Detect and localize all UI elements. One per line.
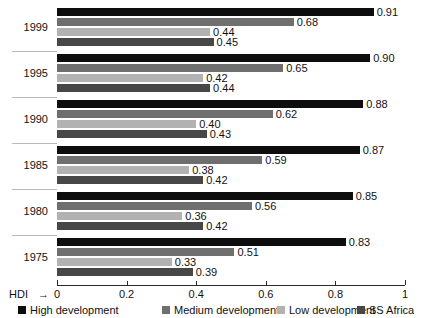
legend-label: High development — [30, 304, 119, 316]
bar-value-label: 0.44 — [213, 82, 234, 94]
bar[interactable] — [57, 130, 207, 138]
bar-row[interactable]: 0.88 — [57, 100, 422, 108]
bar-value-label: 0.56 — [255, 200, 276, 212]
bar-value-label: 0.62 — [276, 108, 297, 120]
bar[interactable] — [57, 156, 262, 164]
year-label: 1999 — [0, 22, 48, 33]
year-label: 1995 — [0, 68, 48, 79]
bar-value-label: 0.39 — [196, 266, 217, 278]
bar[interactable] — [57, 258, 172, 266]
legend-item[interactable]: High development — [18, 304, 119, 316]
bar-value-label: 0.68 — [297, 16, 318, 28]
legend-swatch-icon — [18, 306, 26, 314]
bar[interactable] — [57, 202, 252, 210]
bar-row[interactable]: 0.62 — [57, 110, 422, 118]
chart-legend: High developmentMedium developmentLow de… — [0, 304, 422, 318]
bar-row[interactable]: 0.65 — [57, 64, 422, 72]
bar[interactable] — [57, 18, 294, 26]
bar-value-label: 0.51 — [237, 246, 258, 258]
bar-row[interactable]: 0.36 — [57, 212, 422, 220]
bar[interactable] — [57, 268, 193, 276]
x-axis-arrow-icon: → — [38, 289, 49, 300]
group-separator — [12, 97, 57, 98]
x-axis-tick-label: 0.6 — [258, 289, 273, 300]
bar-value-label: 0.90 — [373, 52, 394, 64]
year-group: 19990.910.680.440.45 — [0, 8, 422, 48]
x-axis-tick-label: 0.8 — [328, 289, 343, 300]
bar[interactable] — [57, 110, 273, 118]
bar[interactable] — [57, 176, 203, 184]
bar-value-label: 0.85 — [356, 190, 377, 202]
bar[interactable] — [57, 222, 203, 230]
bar[interactable] — [57, 38, 214, 46]
year-label: 1980 — [0, 206, 48, 217]
year-label: 1990 — [0, 114, 48, 125]
legend-swatch-icon — [357, 306, 365, 314]
bar[interactable] — [57, 100, 363, 108]
bar-value-label: 0.87 — [363, 144, 384, 156]
legend-swatch-icon — [162, 306, 170, 314]
year-label: 1975 — [0, 252, 48, 263]
bar-value-label: 0.88 — [366, 98, 387, 110]
bar[interactable] — [57, 120, 196, 128]
bar[interactable] — [57, 8, 374, 16]
bar[interactable] — [57, 212, 182, 220]
bar-row[interactable]: 0.85 — [57, 192, 422, 200]
bar[interactable] — [57, 166, 189, 174]
group-separator — [12, 51, 57, 52]
bar-row[interactable]: 0.87 — [57, 146, 422, 154]
bar-value-label: 0.36 — [185, 210, 206, 222]
bar-row[interactable]: 0.91 — [57, 8, 422, 16]
bar[interactable] — [57, 238, 346, 246]
legend-label: Medium development — [174, 304, 279, 316]
bar-row[interactable]: 0.45 — [57, 38, 422, 46]
bar-row[interactable]: 0.42 — [57, 176, 422, 184]
bar[interactable] — [57, 74, 203, 82]
x-axis-tick — [335, 281, 336, 285]
x-axis-tick-label: 1 — [402, 289, 408, 300]
bar-row[interactable]: 0.43 — [57, 130, 422, 138]
bar[interactable] — [57, 192, 353, 200]
x-axis-tick-label: 0 — [54, 289, 60, 300]
legend-label: SS Africa — [369, 304, 414, 316]
x-axis-tick — [405, 280, 406, 285]
bar-row[interactable]: 0.83 — [57, 238, 422, 246]
bar-value-label: 0.43 — [210, 128, 231, 140]
year-group: 19850.870.590.380.42 — [0, 146, 422, 186]
x-axis-tick — [266, 281, 267, 285]
bar[interactable] — [57, 248, 234, 256]
bar-row[interactable]: 0.59 — [57, 156, 422, 164]
bar[interactable] — [57, 64, 283, 72]
bar-row[interactable]: 0.33 — [57, 258, 422, 266]
x-axis-title: HDI — [9, 289, 28, 300]
bar-row[interactable]: 0.38 — [57, 166, 422, 174]
legend-item[interactable]: Medium development — [162, 304, 279, 316]
legend-item[interactable]: SS Africa — [357, 304, 414, 316]
bar-row[interactable]: 0.44 — [57, 84, 422, 92]
year-label: 1985 — [0, 160, 48, 171]
group-separator — [12, 235, 57, 236]
bar-row[interactable]: 0.51 — [57, 248, 422, 256]
bar-row[interactable]: 0.39 — [57, 268, 422, 276]
bar[interactable] — [57, 146, 360, 154]
bar[interactable] — [57, 28, 210, 36]
bar[interactable] — [57, 84, 210, 92]
x-axis-tick — [57, 280, 58, 285]
bar-row[interactable]: 0.44 — [57, 28, 422, 36]
bar-row[interactable]: 0.68 — [57, 18, 422, 26]
bar-row[interactable]: 0.40 — [57, 120, 422, 128]
bar-row[interactable]: 0.42 — [57, 222, 422, 230]
bar[interactable] — [57, 54, 370, 62]
bar-row[interactable]: 0.42 — [57, 74, 422, 82]
year-group: 19800.850.560.360.42 — [0, 192, 422, 232]
bar-value-label: 0.33 — [175, 256, 196, 268]
bar-value-label: 0.65 — [286, 62, 307, 74]
bar-row[interactable]: 0.56 — [57, 202, 422, 210]
bar-value-label: 0.42 — [206, 174, 227, 186]
legend-swatch-icon — [277, 306, 285, 314]
year-group: 19900.880.620.400.43 — [0, 100, 422, 140]
bar-value-label: 0.91 — [377, 6, 398, 18]
bar-row[interactable]: 0.90 — [57, 54, 422, 62]
